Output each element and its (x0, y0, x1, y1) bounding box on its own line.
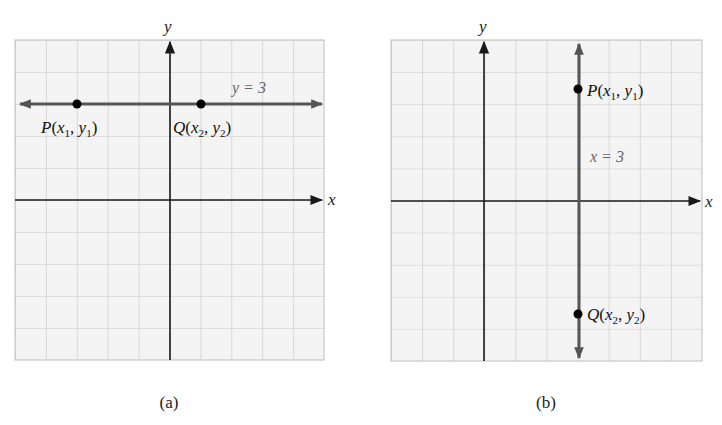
caption-b: (b) (536, 393, 556, 412)
x-axis-label-b: x (704, 192, 713, 211)
panel-b: x y x = 3 P(x1, y1) Q(x2, y2) (b) (391, 17, 713, 412)
point-q-b (574, 310, 583, 319)
line-label-a: y = 3 (230, 79, 266, 97)
panel-a: x y y = 3 P(x1, y1) Q(x2, y2) (a) (15, 17, 336, 412)
caption-a: (a) (160, 393, 179, 412)
line-label-b: x = 3 (589, 148, 624, 165)
y-axis-label-a: y (162, 17, 172, 36)
point-p-b (574, 85, 583, 94)
x-axis-label-a: x (327, 190, 336, 209)
point-p-a (73, 100, 82, 109)
figure-canvas: x y y = 3 P(x1, y1) Q(x2, y2) (a) x y x … (0, 0, 722, 425)
y-axis-label-b: y (477, 17, 487, 36)
point-q-a (197, 100, 206, 109)
